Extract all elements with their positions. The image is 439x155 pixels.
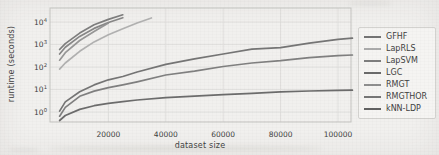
- x-tick-label: 80000: [269, 130, 293, 139]
- y-tick-label: 100: [34, 107, 48, 117]
- y-tick-label: 104: [34, 17, 48, 27]
- legend-line-swatch: [364, 60, 381, 62]
- legend-line-swatch: [364, 48, 381, 50]
- y-tick-label: 101: [34, 84, 47, 94]
- legend-line-swatch: [364, 36, 381, 38]
- legend-label: RMGTHOR: [386, 93, 427, 101]
- legend-item: RMGTHOR: [364, 91, 431, 103]
- legend-line-swatch: [364, 84, 381, 86]
- legend-label: LapSVM: [386, 57, 418, 65]
- legend-item: RMGT: [364, 79, 431, 91]
- x-tick-label: 100000: [324, 130, 353, 139]
- series-line-kNN-LDP: [60, 90, 353, 120]
- figure-runtime-chart: 2000040000600008000010000010010110210310…: [0, 0, 439, 155]
- legend: GFHFLapRLSLapSVMLGCRMGTRMGTHORkNN-LDP: [358, 27, 436, 119]
- legend-item: LapRLS: [364, 43, 431, 55]
- x-axis-title: dataset size: [175, 141, 226, 150]
- x-tick-label: 40000: [154, 130, 178, 139]
- legend-label: kNN-LDP: [386, 105, 421, 113]
- y-axis-title: runtime (seconds): [7, 26, 16, 102]
- legend-line-swatch: [364, 96, 381, 98]
- x-tick-label: 20000: [96, 130, 120, 139]
- x-tick-label: 60000: [211, 130, 235, 139]
- legend-label: RMGT: [386, 81, 409, 89]
- series-line-LGC: [60, 38, 353, 111]
- y-tick-label: 102: [34, 62, 47, 72]
- series-line-RMGTHOR: [60, 55, 353, 116]
- legend-line-swatch: [364, 72, 381, 74]
- legend-item: LGC: [364, 67, 431, 79]
- legend-label: LapRLS: [386, 45, 416, 53]
- legend-label: GFHF: [386, 33, 407, 41]
- legend-label: LGC: [386, 69, 402, 77]
- legend-item: kNN-LDP: [364, 103, 431, 115]
- legend-item: GFHF: [364, 31, 431, 43]
- legend-line-swatch: [364, 108, 381, 110]
- y-tick-label: 103: [34, 39, 47, 49]
- legend-item: LapSVM: [364, 55, 431, 67]
